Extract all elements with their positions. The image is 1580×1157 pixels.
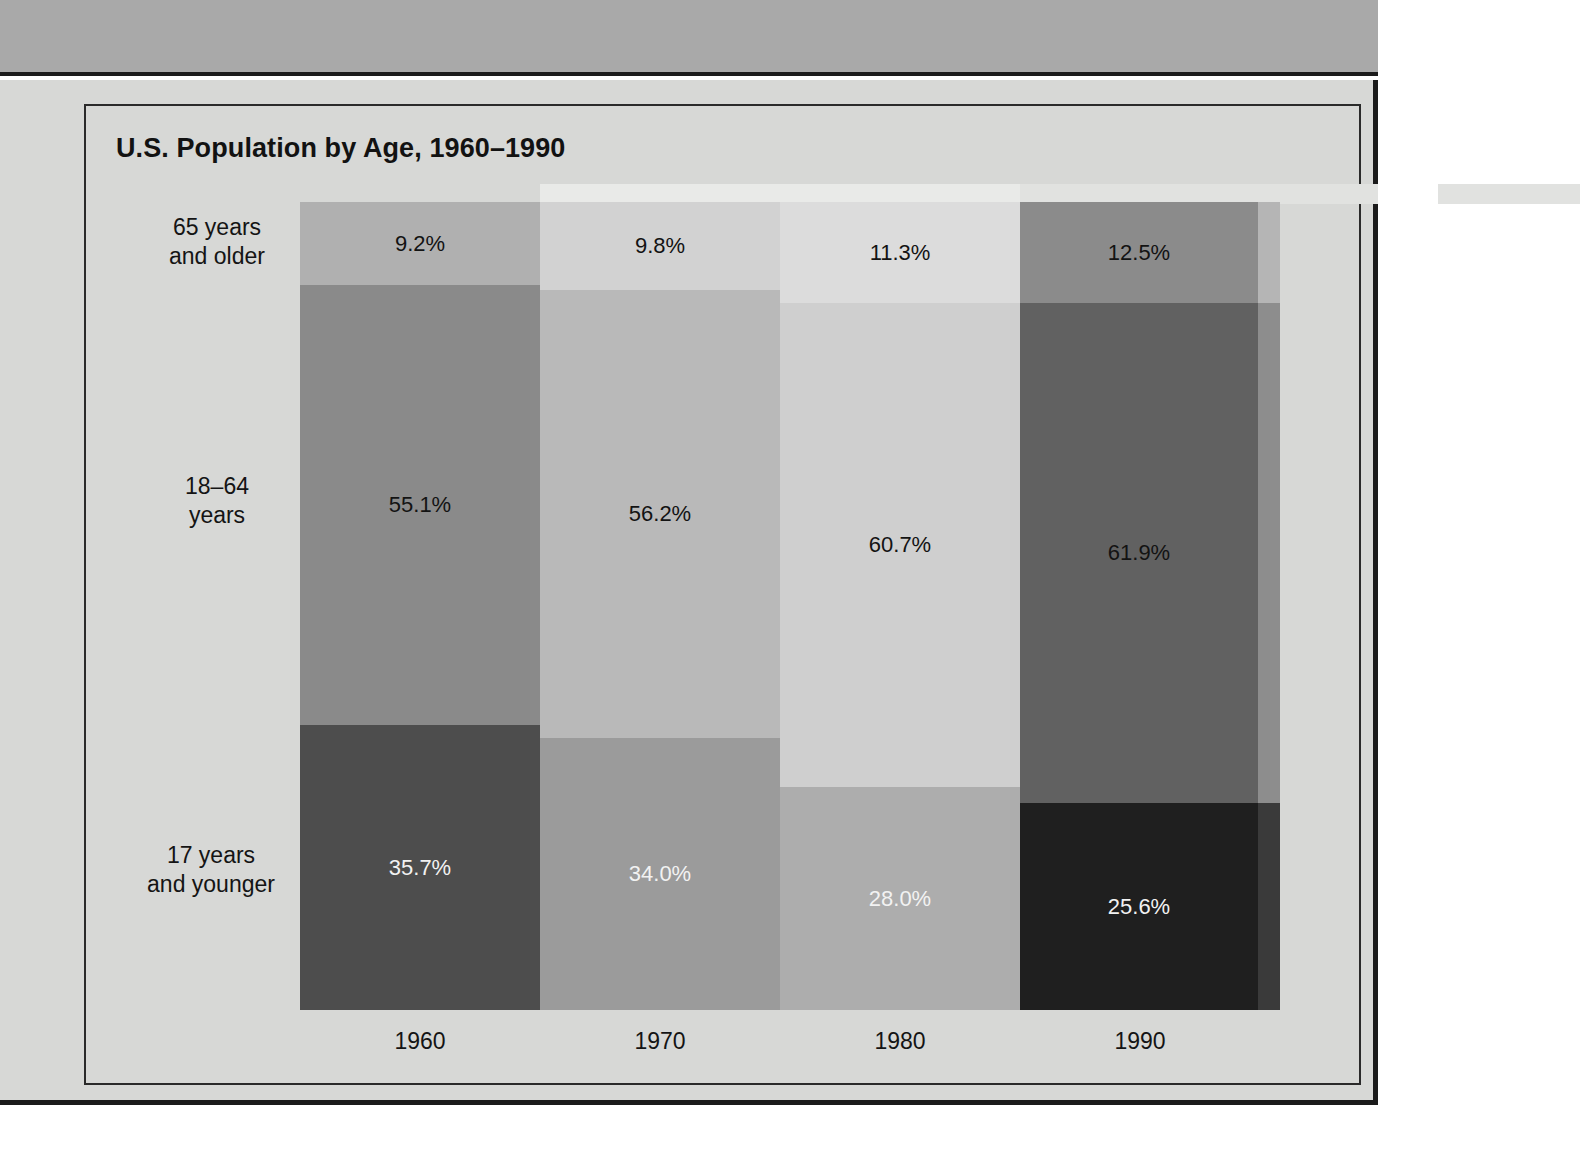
bar-top-face-middle: [540, 184, 1020, 204]
bar-segment-1960-older[interactable]: 9.2%: [300, 202, 540, 285]
bar-value-1980-older: 11.3%: [870, 242, 931, 264]
bar-value-1960-younger: 35.7%: [389, 857, 451, 879]
bar-value-1960-older: 9.2%: [395, 233, 445, 255]
axis-group-label-younger: 17 years and younger: [106, 841, 316, 900]
axis-group-label-older: 65 years and older: [112, 213, 322, 272]
axis-group-label-adult: 18–64 years: [112, 472, 322, 531]
bar-value-1980-younger: 28.0%: [869, 888, 931, 910]
x-axis-label-1960: 1960: [300, 1028, 540, 1055]
axis-group-label-younger-line2: and younger: [106, 870, 316, 899]
bar-segment-1990-adult[interactable]: 61.9%: [1020, 303, 1258, 803]
bar-top-face-right: [1020, 184, 1580, 204]
bar-segment-1980-older[interactable]: 11.3%: [780, 202, 1020, 303]
bar-column-1980[interactable]: 11.3% 60.7% 28.0%: [780, 202, 1020, 1010]
x-axis-label-1990: 1990: [1020, 1028, 1260, 1055]
bar-side-face-1990-older: [1258, 202, 1280, 303]
bar-column-1990[interactable]: 12.5% 61.9% 25.6%: [1020, 202, 1258, 1010]
page-title: U.S. Population by Age, 1960–1990: [116, 133, 565, 164]
bar-segment-1970-older[interactable]: 9.8%: [540, 202, 780, 290]
bar-segment-1970-younger[interactable]: 34.0%: [540, 738, 780, 1010]
stacked-bar-chart-plot: 9.2% 55.1% 35.7% 9.8% 56.2% 34.0% 11: [300, 202, 1258, 1010]
bar-value-1970-adult: 56.2%: [629, 503, 691, 525]
bar-segment-1980-younger[interactable]: 28.0%: [780, 787, 1020, 1010]
bar-value-1990-older: 12.5%: [1108, 242, 1170, 264]
bar-value-1980-adult: 60.7%: [869, 534, 931, 556]
bar-value-1970-older: 9.8%: [635, 235, 685, 257]
bar-segment-1970-adult[interactable]: 56.2%: [540, 290, 780, 738]
bar-column-1970[interactable]: 9.8% 56.2% 34.0%: [540, 202, 780, 1010]
bar-value-1960-adult: 55.1%: [389, 494, 451, 516]
axis-group-label-older-line2: and older: [112, 242, 322, 271]
bar-segment-1980-adult[interactable]: 60.7%: [780, 303, 1020, 787]
axis-group-label-adult-line2: years: [112, 501, 322, 530]
bar-segment-1960-adult[interactable]: 55.1%: [300, 285, 540, 725]
page-right-margin: [1378, 0, 1438, 1157]
x-axis-label-1980: 1980: [780, 1028, 1020, 1055]
bar-value-1990-adult: 61.9%: [1108, 542, 1170, 564]
bar-segment-1960-younger[interactable]: 35.7%: [300, 725, 540, 1010]
bar-side-face-1990-adult: [1258, 303, 1280, 803]
axis-group-label-older-line1: 65 years: [112, 213, 322, 242]
x-axis-label-1970: 1970: [540, 1028, 780, 1055]
bar-side-face-1990-younger: [1258, 803, 1280, 1010]
bar-segment-1990-younger[interactable]: 25.6%: [1020, 803, 1258, 1010]
bar-value-1990-younger: 25.6%: [1108, 896, 1170, 918]
bar-column-1960[interactable]: 9.2% 55.1% 35.7%: [300, 202, 540, 1010]
bar-segment-1990-older[interactable]: 12.5%: [1020, 202, 1258, 303]
axis-group-label-younger-line1: 17 years: [106, 841, 316, 870]
page-header-band: [0, 0, 1378, 76]
axis-group-label-adult-line1: 18–64: [112, 472, 322, 501]
page-bottom-margin: [0, 1105, 1438, 1157]
bar-value-1970-younger: 34.0%: [629, 863, 691, 885]
